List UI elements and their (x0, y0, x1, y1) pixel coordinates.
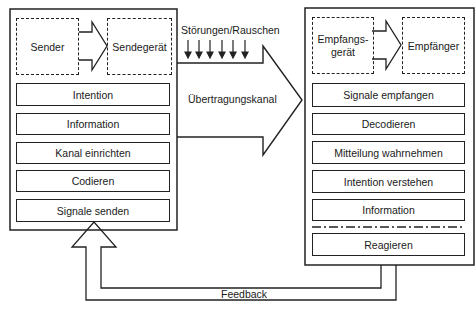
channel-label: Übertragungskanal (188, 93, 277, 105)
step-label: Signale senden (57, 205, 129, 217)
receiver-step-information: Information (312, 199, 465, 221)
step-label: Mitteilung wahrnehmen (334, 147, 443, 159)
receiver-label: Empfänger (408, 40, 459, 52)
step-label: Information (362, 204, 415, 216)
noise-arrows (185, 40, 248, 58)
sender-step-channel: Kanal einrichten (16, 142, 170, 164)
receiver-step-react: Reagieren (312, 233, 465, 256)
step-label: Kanal einrichten (55, 147, 130, 159)
step-label: Codieren (72, 175, 115, 187)
sender-step-information: Information (16, 113, 170, 135)
sender-step-encode: Codieren (16, 170, 170, 192)
feedback-label: Feedback (221, 288, 267, 300)
noise-label: Störungen/Rauschen (181, 24, 280, 36)
device-to-receiver-arrow (372, 21, 401, 69)
receiver-step-perceive: Mitteilung wahrnehmen (312, 141, 465, 164)
sender-step-intention: Intention (16, 83, 170, 106)
receiver-step-receive: Signale empfangen (312, 83, 465, 107)
sender-to-device-arrow (79, 22, 107, 70)
step-label: Intention (73, 89, 113, 101)
receiver-step-decode: Decodieren (312, 113, 465, 135)
step-label: Information (67, 118, 120, 130)
sender-device-box: Sendegerät (107, 18, 172, 75)
receiver-device-label-2: gerät (331, 46, 355, 59)
step-label: Decodieren (362, 118, 416, 130)
receiver-step-understand: Intention verstehen (312, 170, 465, 193)
step-label: Reagieren (364, 239, 412, 251)
sender-device-label: Sendegerät (112, 41, 166, 53)
receiver-device-box: Empfangs- gerät (312, 17, 374, 74)
sender-box: Sender (16, 18, 79, 75)
receiver-box: Empfänger (402, 17, 465, 74)
step-label: Signale empfangen (343, 89, 434, 101)
receiver-device-label-1: Empfangs- (318, 33, 369, 46)
sender-label: Sender (31, 41, 65, 53)
step-label: Intention verstehen (344, 176, 433, 188)
sender-step-send: Signale senden (16, 199, 170, 222)
